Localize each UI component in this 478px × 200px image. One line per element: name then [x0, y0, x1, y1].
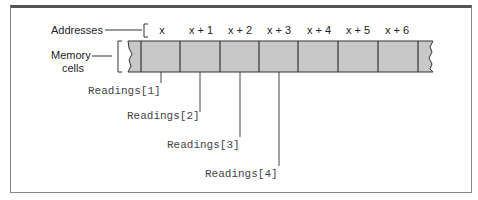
memory-diagram: Addresses x x + 1 x + 2 x + 3 x + 4 x + …	[0, 0, 478, 200]
readings-label: Readings[2]	[127, 110, 200, 122]
address-label: x + 6	[385, 24, 409, 36]
memory-cells-label-line2: cells	[62, 62, 85, 74]
readings-label: Readings[4]	[205, 168, 278, 180]
address-label: x + 2	[228, 24, 252, 36]
readings-label: Readings[3]	[167, 139, 240, 151]
address-label: x + 5	[346, 24, 370, 36]
address-label: x + 1	[189, 24, 213, 36]
address-label: x + 4	[307, 24, 331, 36]
readings-label: Readings[1]	[88, 85, 161, 97]
addresses-label: Addresses	[51, 24, 103, 36]
memory-bar	[128, 41, 433, 72]
memory-cells-label-line1: Memory	[51, 49, 91, 61]
address-label: x + 3	[267, 24, 291, 36]
address-label: x	[159, 24, 165, 36]
